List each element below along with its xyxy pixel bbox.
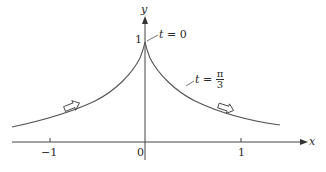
- mid-leader-line: [186, 81, 194, 86]
- x-axis-arrow-icon: [300, 139, 308, 145]
- x-axis-label: x: [309, 136, 315, 147]
- direction-arrow-right-icon: [217, 101, 235, 115]
- y-axis-label: y: [141, 4, 147, 15]
- cusp-annotation-value: = 0: [163, 28, 186, 41]
- mid-annotation-fraction: π3: [216, 69, 225, 90]
- cusp-leader-line: [147, 35, 158, 41]
- curve: [12, 42, 280, 127]
- x-tick-label-neg1: −1: [41, 147, 57, 158]
- direction-arrow-left-icon: [63, 98, 82, 113]
- fraction-denominator: 3: [216, 80, 225, 90]
- mid-annotation: t = π3: [195, 69, 224, 90]
- y-tick-label-1: 1: [135, 34, 142, 45]
- cusp-annotation: t = 0: [159, 29, 187, 40]
- x-tick-label-0: 0: [137, 147, 144, 158]
- parametric-curve-diagram: y x −1 0 1 1 t = 0 t = π3: [0, 0, 326, 172]
- mid-annotation-eq: =: [199, 73, 215, 86]
- y-axis-arrow-icon: [142, 16, 148, 24]
- x-tick-label-1: 1: [238, 147, 245, 158]
